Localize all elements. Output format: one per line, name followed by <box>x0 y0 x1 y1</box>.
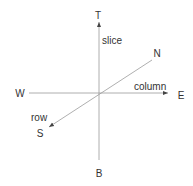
depth-axis <box>49 60 152 127</box>
row-axis-line <box>49 60 152 127</box>
label-slice: slice <box>102 35 122 46</box>
label-south: S <box>37 128 44 139</box>
axis-diagram: T B W E N S slice column row <box>0 0 193 186</box>
label-east: E <box>178 90 185 101</box>
label-west: W <box>15 88 25 99</box>
label-bottom: B <box>96 168 103 179</box>
label-top: T <box>95 10 101 21</box>
label-column: column <box>134 81 166 92</box>
label-north: N <box>153 48 160 59</box>
label-row: row <box>31 112 48 123</box>
